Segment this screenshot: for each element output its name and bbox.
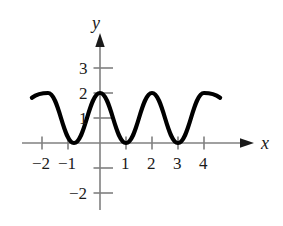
x-tick-label-4: 4 [199,155,208,172]
y-tick-label-3: 3 [79,60,88,77]
plot-canvas [0,0,283,226]
y-axis-ticks [94,68,114,193]
y-tick-label-1: 1 [79,110,88,127]
y-tick-label-neg2: −2 [69,185,87,202]
y-tick-label-2: 2 [79,85,88,102]
graph-figure: −2 −1 1 2 3 4 3 2 1 −2 y x [0,0,283,226]
x-tick-label-1: 1 [121,155,130,172]
y-axis-arrowhead [95,33,104,47]
y-axis-label: y [92,14,100,32]
x-axis-arrowhead [240,138,254,148]
x-axis-label: x [261,134,269,152]
x-tick-label-3: 3 [173,155,182,172]
x-tick-label-neg1: −1 [58,155,76,172]
function-curve [32,93,220,143]
x-tick-label-2: 2 [147,155,156,172]
x-tick-label-neg2: −2 [32,155,50,172]
